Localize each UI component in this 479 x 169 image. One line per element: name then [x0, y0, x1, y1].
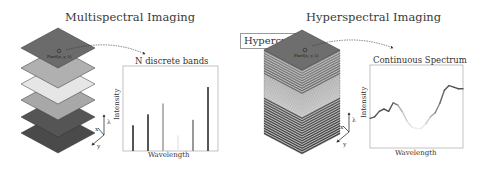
hypercube-stack — [264, 30, 340, 154]
svg-text:λ: λ — [107, 118, 111, 125]
multispectral-layer-stack — [21, 28, 95, 153]
line-chart-xlabel: Wavelength — [395, 149, 437, 157]
band-bar — [207, 87, 209, 151]
svg-text:y: y — [342, 140, 347, 148]
bar-chart-xlabel: Wavelength — [148, 151, 190, 159]
bar-chart-title: N discrete bands — [135, 56, 208, 66]
band-bar — [162, 103, 164, 151]
pixel-label-left: Pixel(x, y, λ) — [47, 54, 72, 59]
bar-chart-frame — [123, 66, 218, 151]
line-chart-ylabel: Intensity — [360, 87, 368, 118]
bar-chart-ylabel: Intensity — [113, 89, 121, 120]
band-bar — [132, 125, 134, 151]
line-chart-frame — [370, 65, 463, 148]
pixel-label-right: Pixel(x, y, λ) — [294, 53, 319, 58]
svg-text:λ: λ — [352, 116, 356, 123]
band-bar — [192, 120, 194, 151]
band-bar — [147, 114, 149, 151]
line-chart-title: Continuous Spectrum — [373, 55, 467, 65]
band-bar — [177, 135, 179, 151]
svg-text:y: y — [96, 142, 101, 150]
diagram-canvas: Pixel(x, y, λ) λ x y Pixel(x, y, λ) λ x … — [0, 0, 479, 169]
axes-icon-left: λ x y — [92, 115, 111, 150]
